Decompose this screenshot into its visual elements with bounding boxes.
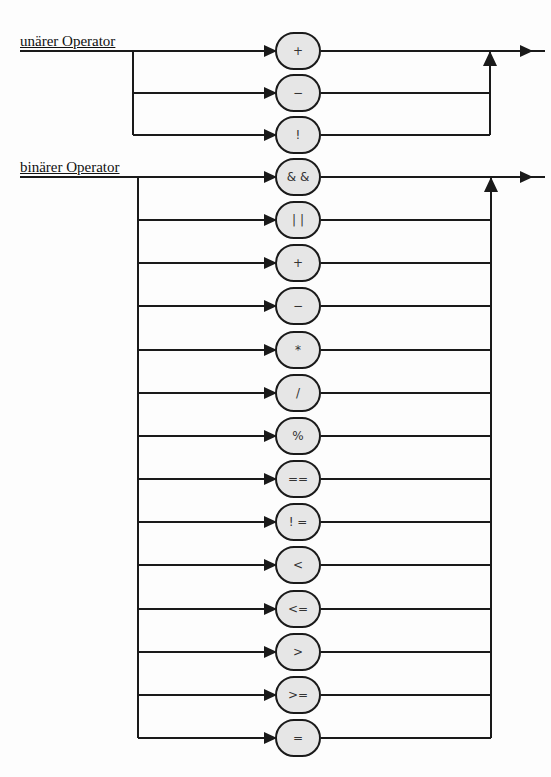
binary-operator-node: % bbox=[275, 417, 321, 455]
unary-operator-node: − bbox=[275, 74, 321, 112]
binary-operator-node: + bbox=[275, 244, 321, 282]
binary-operator-node: / bbox=[275, 374, 321, 412]
binary-operator-label: binärer Operator bbox=[20, 159, 120, 176]
binary-operator-node: = bbox=[275, 719, 321, 757]
unary-operator-node: + bbox=[275, 32, 321, 70]
binary-operator-node: & & bbox=[275, 158, 321, 196]
binary-operator-node: * bbox=[275, 331, 321, 369]
syntax-diagram: unärer Operator binärer Operator +−!& &|… bbox=[0, 0, 551, 777]
binary-operator-node: > bbox=[275, 633, 321, 671]
binary-operator-node: == bbox=[275, 460, 321, 498]
binary-operator-node: >= bbox=[275, 676, 321, 714]
unary-operator-label: unärer Operator bbox=[20, 33, 115, 50]
unary-operator-node: ! bbox=[275, 116, 321, 154]
binary-operator-node: <= bbox=[275, 590, 321, 628]
binary-operator-node: < bbox=[275, 546, 321, 584]
binary-operator-node: ! = bbox=[275, 503, 321, 541]
binary-operator-node: − bbox=[275, 287, 321, 325]
binary-operator-node: | | bbox=[275, 201, 321, 239]
